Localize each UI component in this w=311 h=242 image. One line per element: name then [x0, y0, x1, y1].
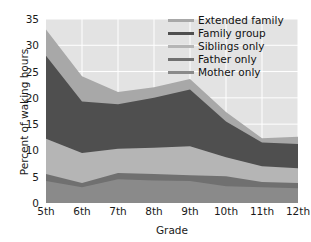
x-tick-label: 5th: [37, 205, 54, 217]
y-tick-label: 5: [32, 171, 39, 183]
legend-item-siblings-only: Siblings only: [168, 40, 284, 52]
y-tick-label: 20: [26, 92, 39, 104]
y-tick-label: 30: [26, 39, 39, 51]
y-tick-label: 15: [26, 118, 39, 130]
legend-swatch-icon: [168, 58, 194, 61]
legend-label: Family group: [198, 27, 266, 39]
x-axis-tick-labels: 5th 6th 7th 8th 9th 10th 11th 12th: [46, 205, 298, 221]
legend-label: Extended family: [198, 14, 284, 26]
legend-item-family-group: Family group: [168, 27, 284, 39]
x-tick-label: 10th: [214, 205, 238, 217]
legend-item-mother-only: Mother only: [168, 66, 284, 78]
y-tick-label: 35: [26, 13, 39, 25]
stacked-area-chart: Percent of waking hours 35 30 25 20 15 1…: [0, 0, 311, 242]
legend-label: Father only: [198, 53, 257, 65]
x-tick-label: 6th: [73, 205, 90, 217]
x-tick-label: 9th: [181, 205, 198, 217]
legend-item-father-only: Father only: [168, 53, 284, 65]
legend-swatch-icon: [168, 71, 194, 74]
x-tick-label: 12th: [286, 205, 310, 217]
x-axis-title: Grade: [46, 224, 298, 236]
x-tick-label: 7th: [109, 205, 126, 217]
legend-swatch-icon: [168, 32, 194, 35]
y-tick-label: 25: [26, 66, 39, 78]
legend-swatch-icon: [168, 45, 194, 48]
x-tick-label: 8th: [145, 205, 162, 217]
legend-swatch-icon: [168, 19, 194, 22]
legend-label: Siblings only: [198, 40, 264, 52]
legend-item-extended-family: Extended family: [168, 14, 284, 26]
x-tick-label: 11th: [250, 205, 274, 217]
y-tick-label: 10: [26, 144, 39, 156]
legend-label: Mother only: [198, 66, 261, 78]
chart-legend: Extended family Family group Siblings on…: [168, 14, 284, 78]
